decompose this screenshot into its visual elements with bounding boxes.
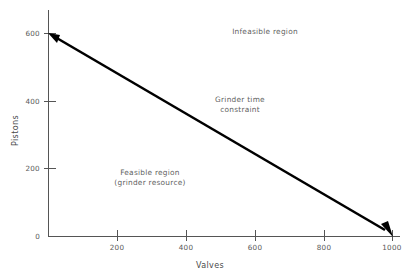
y-tick-label-200: 200 [14, 164, 40, 173]
annotation-feasible-region: Feasible region (grinder resource) [85, 168, 215, 188]
x-tick-label-600: 600 [237, 243, 273, 252]
x-tick-label-800: 800 [306, 243, 342, 252]
chart-container: 600 400 200 0 200 400 600 800 1000 Pisto… [0, 0, 413, 279]
chart-plot-area [0, 0, 413, 279]
arrowhead-start-icon [48, 33, 60, 43]
annotation-constraint-line-1: Grinder time [180, 95, 300, 105]
x-axis-title: Valves [160, 261, 260, 270]
y-tick-label-400: 400 [14, 97, 40, 106]
annotation-infeasible-region: Infeasible region [205, 27, 325, 37]
annotation-constraint-line-2: constraint [180, 105, 300, 115]
y-tick-label-600: 600 [14, 29, 40, 38]
x-tick-label-400: 400 [168, 243, 204, 252]
x-tick-label-200: 200 [99, 243, 135, 252]
constraint-line [55, 37, 385, 230]
x-tick-label-1000: 1000 [374, 243, 410, 252]
y-axis-title: Pistons [11, 108, 20, 154]
annotation-feasible-line-2: (grinder resource) [85, 178, 215, 188]
annotation-grinder-time-constraint: Grinder time constraint [180, 95, 300, 115]
y-tick-label-0: 0 [14, 232, 40, 241]
annotation-feasible-line-1: Feasible region [85, 168, 215, 178]
